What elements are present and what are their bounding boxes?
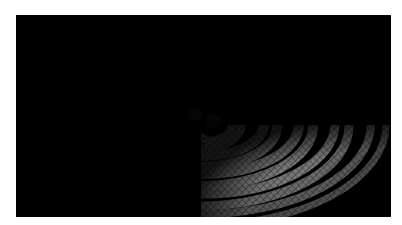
black-hole-1 [187,107,203,121]
black-hole-2 [206,114,222,128]
gravitational-wave-image [16,15,391,217]
spiral-wave-graphic [16,15,391,217]
